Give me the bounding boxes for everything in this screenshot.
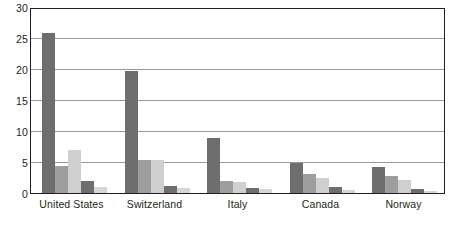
bar [316, 178, 329, 193]
x-tick-label: Italy [196, 198, 279, 218]
y-axis: 051015202530 [0, 0, 28, 233]
bar-groups-layer [31, 9, 444, 193]
x-axis: United StatesSwitzerlandItalyCanadaNorwa… [30, 198, 445, 218]
bar [207, 138, 220, 193]
bar [42, 33, 55, 193]
y-tick-label: 0 [2, 189, 28, 199]
bar [138, 160, 151, 194]
bar-group [31, 9, 114, 193]
bar [233, 182, 246, 193]
bar [329, 187, 342, 193]
plot-area [30, 8, 445, 194]
bar [342, 190, 355, 193]
bar [290, 163, 303, 193]
bar [164, 186, 177, 193]
bar [220, 181, 233, 193]
y-tick-label: 25 [2, 34, 28, 44]
bar [55, 166, 68, 193]
x-tick-label: United States [30, 198, 113, 218]
bar [259, 189, 272, 193]
x-tick-label: Canada [279, 198, 362, 218]
bar [411, 189, 424, 193]
bar-chart: 051015202530 United StatesSwitzerlandIta… [0, 0, 454, 233]
bar [177, 188, 190, 193]
bar [398, 180, 411, 193]
bar [81, 181, 94, 193]
bar-group [361, 9, 444, 193]
bar [151, 160, 164, 194]
y-tick-label: 5 [2, 158, 28, 168]
y-tick-label: 10 [2, 127, 28, 137]
y-tick-label: 20 [2, 65, 28, 75]
bar [94, 187, 107, 193]
bar [424, 191, 437, 193]
bar-group [114, 9, 197, 193]
bar [372, 167, 385, 193]
bar-group [279, 9, 362, 193]
bar [246, 188, 259, 193]
x-tick-label: Norway [362, 198, 445, 218]
x-tick-label: Switzerland [113, 198, 196, 218]
bar [125, 71, 138, 193]
bar [385, 176, 398, 193]
y-tick-label: 30 [2, 3, 28, 13]
y-tick-label: 15 [2, 96, 28, 106]
bar [303, 174, 316, 193]
bar [68, 150, 81, 193]
bar-group [196, 9, 279, 193]
